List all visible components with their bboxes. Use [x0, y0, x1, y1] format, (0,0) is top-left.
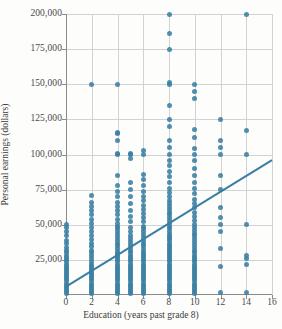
data-point: [115, 200, 120, 205]
plot-area: 0246810121416 25,00050,00075,000100,0001…: [66, 14, 272, 295]
x-tick-label: 6: [132, 297, 154, 307]
data-point: [192, 82, 197, 87]
data-point: [115, 189, 120, 194]
data-point: [141, 183, 146, 188]
x-tick-label: 10: [184, 297, 206, 307]
data-point: [167, 12, 172, 17]
data-point: [89, 82, 94, 87]
data-point: [128, 180, 133, 185]
data-point: [141, 172, 146, 177]
data-point: [141, 203, 146, 208]
data-point: [192, 127, 197, 132]
data-point: [167, 163, 172, 168]
x-tick-label: 8: [158, 297, 180, 307]
data-point: [167, 169, 172, 174]
data-point: [218, 290, 223, 295]
data-point: [141, 224, 146, 229]
data-point: [167, 138, 172, 143]
data-point: [218, 152, 223, 157]
data-point: [167, 31, 172, 36]
data-point: [115, 217, 120, 222]
data-point: [64, 222, 69, 227]
data-point: [167, 124, 172, 129]
data-point: [64, 229, 69, 234]
data-point: [128, 214, 133, 219]
data-point: [115, 82, 120, 87]
data-point: [115, 130, 120, 135]
data-point: [128, 194, 133, 199]
data-point: [167, 158, 172, 163]
data-point: [167, 186, 172, 191]
data-point: [167, 47, 172, 52]
gridline-vertical: [272, 14, 273, 295]
data-point: [128, 225, 133, 230]
x-tick-label: 12: [210, 297, 232, 307]
y-tick-label: 25,000: [4, 254, 62, 264]
x-tick-label: 0: [55, 297, 77, 307]
y-tick-label: 175,000: [4, 43, 62, 53]
data-point: [141, 194, 146, 199]
data-point: [244, 262, 249, 267]
data-point: [167, 198, 172, 203]
y-tick-label: 75,000: [4, 184, 62, 194]
x-tick-label: 14: [235, 297, 257, 307]
data-point: [89, 217, 94, 222]
data-point: [218, 145, 223, 150]
data-point: [167, 145, 172, 150]
data-point: [167, 103, 172, 108]
data-point: [192, 158, 197, 163]
data-point: [128, 151, 133, 156]
y-tick-label: 50,000: [4, 219, 62, 229]
y-tick-label: 150,000: [4, 78, 62, 88]
data-point: [244, 290, 249, 295]
x-tick-label: 16: [261, 297, 282, 307]
data-point: [89, 193, 94, 198]
data-point: [115, 183, 120, 188]
data-point: [192, 210, 197, 215]
x-tick-label: 2: [81, 297, 103, 307]
data-point: [128, 187, 133, 192]
data-point: [167, 180, 172, 185]
data-point: [192, 186, 197, 191]
data-point: [244, 152, 249, 157]
data-point: [64, 238, 69, 243]
data-point: [167, 117, 172, 122]
y-tick-label: 100,000: [4, 149, 62, 159]
data-point: [218, 138, 223, 143]
data-point: [244, 128, 249, 133]
data-point: [218, 117, 223, 122]
y-tick-label: 125,000: [4, 113, 62, 123]
data-point: [115, 151, 120, 156]
data-point: [141, 148, 146, 153]
data-point: [115, 138, 120, 143]
data-point: [244, 12, 249, 17]
data-point: [141, 189, 146, 194]
data-point: [167, 152, 172, 157]
data-point: [244, 222, 249, 227]
scatter-plot: Personal earnings (dollars) 024681012141…: [0, 0, 282, 329]
data-point: [167, 80, 172, 85]
x-tick-label: 4: [107, 297, 129, 307]
x-axis-title: Education (years past grade 8): [0, 310, 282, 320]
data-point: [244, 253, 249, 258]
y-tick-label: 200,000: [4, 8, 62, 18]
